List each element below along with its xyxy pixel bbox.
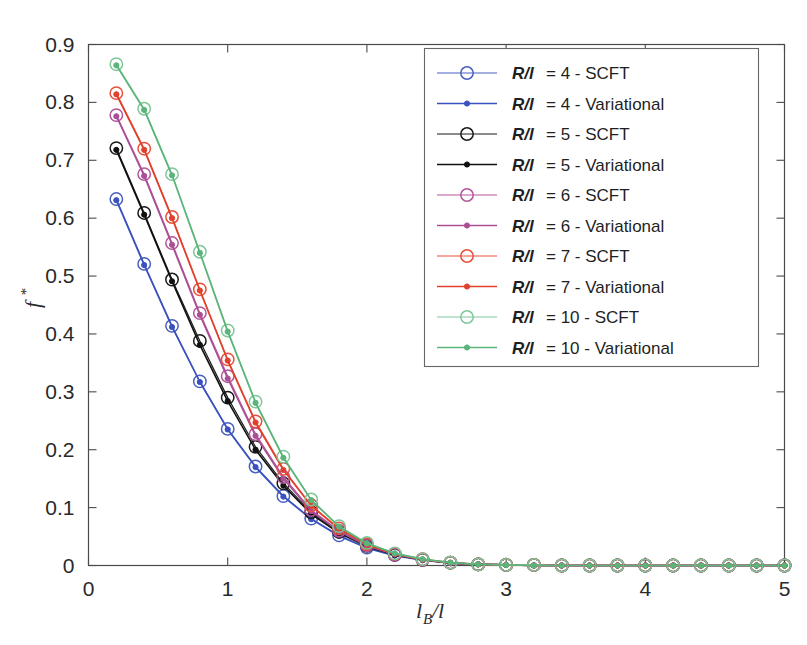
- x-tick-label: 4: [639, 577, 651, 600]
- y-axis-title-superscript: *: [18, 288, 34, 296]
- legend-label-text: = 4 - Variational: [546, 95, 664, 114]
- data-point-marker: [197, 379, 202, 384]
- data-point-marker: [615, 563, 620, 568]
- x-axis-title-tail: /l: [430, 598, 444, 623]
- legend-label-text: = 5 - Variational: [546, 156, 664, 175]
- legend-label-key: R/l: [512, 247, 535, 266]
- x-tick-label: 5: [779, 577, 791, 600]
- data-point-marker: [169, 216, 174, 221]
- legend-label-text: = 10 - Variational: [546, 339, 674, 358]
- data-point-marker: [114, 198, 119, 203]
- data-point-marker: [142, 173, 147, 178]
- data-point-marker: [169, 242, 174, 247]
- x-tick-label: 3: [500, 577, 512, 600]
- data-point-marker: [253, 420, 258, 425]
- y-tick-label: 0.2: [45, 438, 74, 461]
- data-point-marker: [169, 324, 174, 329]
- data-point-marker: [253, 433, 258, 438]
- legend-marker-swatch: [464, 345, 469, 350]
- legend-label-key: R/l: [512, 278, 535, 297]
- data-point-marker: [531, 563, 536, 568]
- data-point-marker: [225, 398, 230, 403]
- data-point-marker: [225, 427, 230, 432]
- legend-label-key: R/l: [512, 217, 535, 236]
- legend-label-text: = 7 - Variational: [546, 278, 664, 297]
- data-point-marker: [114, 63, 119, 68]
- legend-label-key: R/l: [512, 308, 535, 327]
- data-point-marker: [142, 262, 147, 267]
- data-point-marker: [504, 562, 509, 567]
- data-point-marker: [114, 147, 119, 152]
- x-axis-title-subscript: B: [423, 611, 432, 627]
- legend-label-text: = 4 - SCFT: [546, 64, 630, 83]
- legend-label-key: R/l: [512, 95, 535, 114]
- y-tick-label: 0.5: [45, 264, 74, 287]
- data-point-marker: [309, 497, 314, 502]
- y-tick-label: 0.3: [45, 380, 74, 403]
- data-point-marker: [253, 447, 258, 452]
- data-point-marker: [281, 476, 286, 481]
- data-point-marker: [281, 455, 286, 460]
- data-point-marker: [281, 494, 286, 499]
- y-tick-label: 0: [63, 554, 75, 577]
- data-point-marker: [559, 563, 564, 568]
- data-point-marker: [392, 551, 397, 556]
- chart-figure: 01234500.10.20.30.40.50.60.70.80.9 f * l…: [0, 0, 807, 645]
- data-point-marker: [476, 562, 481, 567]
- data-point-marker: [253, 400, 258, 405]
- data-point-marker: [587, 563, 592, 568]
- data-point-marker: [671, 563, 676, 568]
- data-point-marker: [114, 114, 119, 119]
- legend-label-text: = 7 - SCFT: [546, 247, 630, 266]
- data-point-marker: [142, 147, 147, 152]
- data-point-marker: [754, 563, 759, 568]
- y-tick-label: 0.9: [45, 33, 74, 56]
- legend-label-key: R/l: [512, 125, 535, 144]
- data-point-marker: [169, 173, 174, 178]
- x-axis-title-text: l: [416, 598, 422, 623]
- y-tick-label: 0.1: [45, 496, 74, 519]
- legend-label-text: = 10 - SCFT: [546, 308, 639, 327]
- legend-label-key: R/l: [512, 156, 535, 175]
- data-point-marker: [142, 107, 147, 112]
- line-chart: 01234500.10.20.30.40.50.60.70.80.9 f * l…: [0, 0, 807, 645]
- data-point-marker: [225, 376, 230, 381]
- legend-label-text: = 5 - SCFT: [546, 125, 630, 144]
- data-point-marker: [643, 563, 648, 568]
- data-point-marker: [197, 288, 202, 293]
- data-point-marker: [197, 312, 202, 317]
- legend-label-key: R/l: [512, 339, 535, 358]
- legend-marker-swatch: [464, 284, 469, 289]
- data-point-marker: [253, 464, 258, 469]
- y-tick-label: 0.6: [45, 206, 74, 229]
- data-point-marker: [726, 563, 731, 568]
- x-tick-label: 1: [222, 577, 234, 600]
- x-tick-label: 2: [361, 577, 373, 600]
- y-tick-label: 0.8: [45, 90, 74, 113]
- legend-label-key: R/l: [512, 64, 535, 83]
- x-tick-label: 0: [83, 577, 95, 600]
- legend-label-text: = 6 - SCFT: [546, 186, 630, 205]
- data-point-marker: [169, 279, 174, 284]
- chart-legend: R/l= 4 - SCFTR/l= 4 - VariationalR/l= 5 …: [425, 49, 759, 367]
- data-point-marker: [142, 212, 147, 217]
- legend-label-text: = 6 - Variational: [546, 217, 664, 236]
- legend-marker-swatch: [464, 162, 469, 167]
- legend-label-key: R/l: [512, 186, 535, 205]
- data-point-marker: [698, 563, 703, 568]
- y-tick-label: 0.7: [45, 148, 74, 171]
- data-point-marker: [114, 92, 119, 97]
- data-point-marker: [420, 557, 425, 562]
- data-point-marker: [197, 342, 202, 347]
- data-point-marker: [197, 250, 202, 255]
- data-point-marker: [448, 560, 453, 565]
- data-point-marker: [225, 358, 230, 363]
- legend-marker-swatch: [464, 101, 469, 106]
- data-point-marker: [225, 329, 230, 334]
- data-point-marker: [364, 541, 369, 546]
- data-point-marker: [336, 524, 341, 529]
- legend-marker-swatch: [464, 223, 469, 228]
- y-tick-label: 0.4: [45, 322, 75, 345]
- data-point-marker: [782, 563, 787, 568]
- data-point-marker: [281, 467, 286, 472]
